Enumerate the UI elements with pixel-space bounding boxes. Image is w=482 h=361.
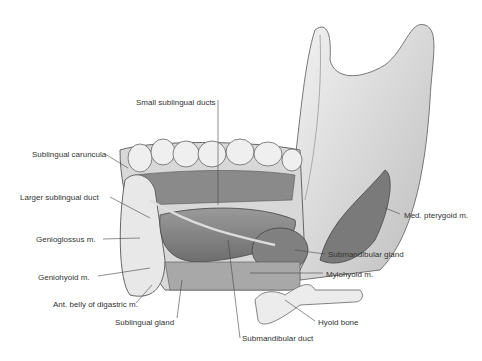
label-hyoid-bone: Hyoid bone — [318, 318, 358, 328]
anatomy-figure: Small sublingual ducts Sublingual carunc… — [0, 0, 482, 361]
label-small-sublingual-ducts: Small sublingual ducts — [136, 98, 216, 108]
label-genioglossus: Genioglossus m. — [36, 235, 96, 245]
label-submandibular-duct: Submandibular duct — [242, 334, 313, 344]
label-sublingual-caruncula: Sublingual caruncula — [32, 150, 106, 160]
label-geniohyoid: Geniohyoid m. — [38, 273, 90, 283]
label-mylohyoid: Mylohyoid m. — [326, 270, 373, 280]
label-submandibular-gland: Submandibular gland — [328, 250, 404, 260]
label-med-pterygoid: Med. pterygoid m. — [404, 211, 468, 221]
label-larger-sublingual-duct: Larger sublingual duct — [20, 193, 99, 203]
label-ant-belly-digastric: Ant. belly of digastric m. — [53, 300, 138, 310]
label-sublingual-gland: Sublingual gland — [115, 318, 174, 328]
